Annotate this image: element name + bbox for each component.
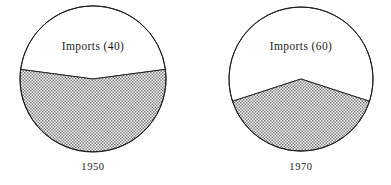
pie-slice-label-1970: Imports (60) bbox=[240, 41, 362, 53]
chart-caption-1950: 1950 bbox=[53, 162, 133, 173]
charts-canvas bbox=[0, 0, 391, 185]
pie-chart-1970 bbox=[229, 7, 373, 151]
pie-chart-figure: Imports (40) Imports (60) 1950 1970 bbox=[0, 0, 391, 185]
pie-chart-1950 bbox=[20, 6, 166, 152]
chart-caption-1970: 1970 bbox=[261, 162, 341, 173]
pie-slice-label-1950: Imports (40) bbox=[32, 41, 154, 53]
pie-slice-domestic-1950 bbox=[20, 69, 166, 151]
